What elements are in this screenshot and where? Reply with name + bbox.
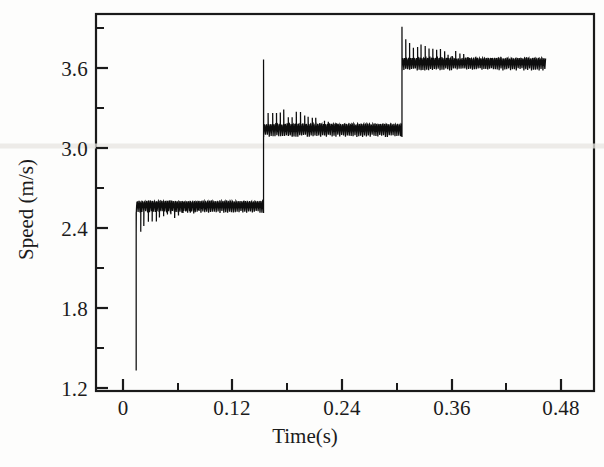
- speed-trace: [136, 27, 545, 371]
- x-major-ticks: [123, 379, 561, 391]
- y-tick-label-5: 3.6: [38, 57, 88, 82]
- y-tick-label-4: 3.0: [38, 137, 88, 162]
- x-tick-label-1: 0: [83, 396, 163, 421]
- x-tick-label-5: 0.48: [521, 396, 601, 421]
- y-tick-label-3: 2.4: [38, 217, 88, 242]
- x-axis-title: Time(s): [245, 424, 365, 449]
- x-tick-label-3: 0.24: [302, 396, 382, 421]
- figure-canvas: 1.2 1.8 2.4 3.0 3.6 0 0.12 0.24 0.36 0.4…: [0, 0, 604, 467]
- y-major-ticks: [96, 68, 108, 388]
- y-tick-label-2: 1.8: [38, 297, 88, 322]
- y-minor-ticks: [96, 28, 104, 348]
- x-tick-label-4: 0.36: [412, 396, 492, 421]
- y-axis-title: Speed (m/s): [14, 140, 39, 280]
- x-tick-label-2: 0.12: [192, 396, 272, 421]
- y-tick-label-1: 1.2: [38, 377, 88, 402]
